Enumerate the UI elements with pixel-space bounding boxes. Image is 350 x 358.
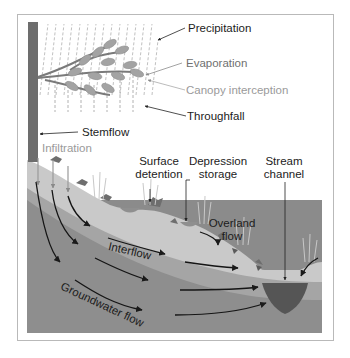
label-depression-storage: Depression storage xyxy=(187,155,249,181)
label-surface-detention: Surface detention xyxy=(134,155,184,181)
label-stemflow: Stemflow xyxy=(82,126,129,139)
precipitation-lines xyxy=(40,24,158,95)
label-throughfall: Throughfall xyxy=(187,110,245,123)
label-stream-channel: Stream channel xyxy=(256,155,312,181)
tree-trunk xyxy=(28,22,38,162)
label-precipitation: Precipitation xyxy=(188,22,251,35)
label-overland-flow: Overland flow xyxy=(207,217,257,243)
tree-leaves xyxy=(64,37,145,97)
label-canopy-interception: Canopy interception xyxy=(186,84,288,97)
label-infiltration: Infiltration xyxy=(42,142,92,155)
label-evaporation: Evaporation xyxy=(186,57,247,70)
